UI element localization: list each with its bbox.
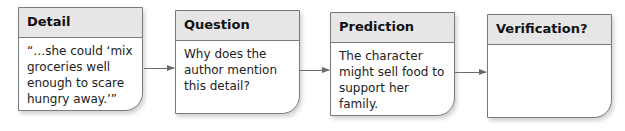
verification-box: Verification? xyxy=(487,14,612,118)
question-box: Question Why does the author mention thi… xyxy=(175,10,300,114)
detail-box-text: “…she could ‘mix groceries well enough t… xyxy=(19,38,142,107)
question-box-title: Question xyxy=(176,11,299,41)
prediction-box-text: The character might sell food to support… xyxy=(331,43,454,112)
prediction-box-title: Prediction xyxy=(331,13,454,43)
arrow-prediction-to-verification xyxy=(455,72,486,73)
prediction-box: Prediction The character might sell food… xyxy=(330,12,455,116)
question-box-text: Why does the author mention this detail? xyxy=(176,41,299,94)
verification-box-title: Verification? xyxy=(488,15,611,45)
detail-box: Detail “…she could ‘mix groceries well e… xyxy=(18,7,143,111)
arrow-question-to-prediction xyxy=(300,70,329,71)
verification-box-text xyxy=(488,45,611,50)
detail-box-title: Detail xyxy=(19,8,142,38)
arrow-detail-to-question xyxy=(144,68,174,69)
